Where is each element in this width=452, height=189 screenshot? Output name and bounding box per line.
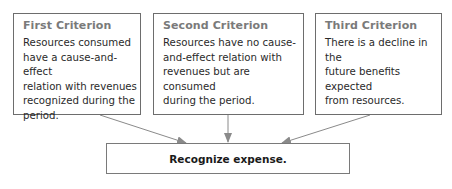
second-criterion-text: Resources have no cause- and-effect rela…: [163, 36, 303, 109]
text-line: have a cause-and-effect: [23, 51, 140, 80]
text-line: period.: [23, 109, 140, 124]
text-line: during the period.: [163, 94, 303, 109]
text-line: from resources.: [325, 94, 441, 109]
second-criterion-title: Second Criterion: [163, 19, 268, 32]
text-line: Resources consumed: [23, 36, 140, 51]
text-line: future benefits expected: [325, 65, 441, 94]
arrow-third: [282, 115, 370, 143]
text-line: Resources have no cause-: [163, 36, 303, 51]
third-criterion-title: Third Criterion: [325, 19, 417, 32]
text-line: There is a decline in the: [325, 36, 441, 65]
text-line: recognized during the: [23, 94, 140, 109]
recognize-expense-label: Recognize expense.: [169, 153, 287, 165]
first-criterion-title: First Criterion: [23, 19, 111, 32]
text-line: relation with revenues: [23, 80, 140, 95]
first-criterion-text: Resources consumed have a cause-and-effe…: [23, 36, 140, 124]
third-criterion-box: Third Criterion There is a decline in th…: [315, 13, 442, 115]
first-criterion-box: First Criterion Resources consumed have …: [13, 13, 141, 115]
text-line: and-effect relation with: [163, 51, 303, 66]
third-criterion-text: There is a decline in the future benefit…: [325, 36, 441, 109]
recognize-expense-box: Recognize expense.: [106, 143, 350, 174]
text-line: revenues but are consumed: [163, 65, 303, 94]
second-criterion-box: Second Criterion Resources have no cause…: [153, 13, 304, 115]
